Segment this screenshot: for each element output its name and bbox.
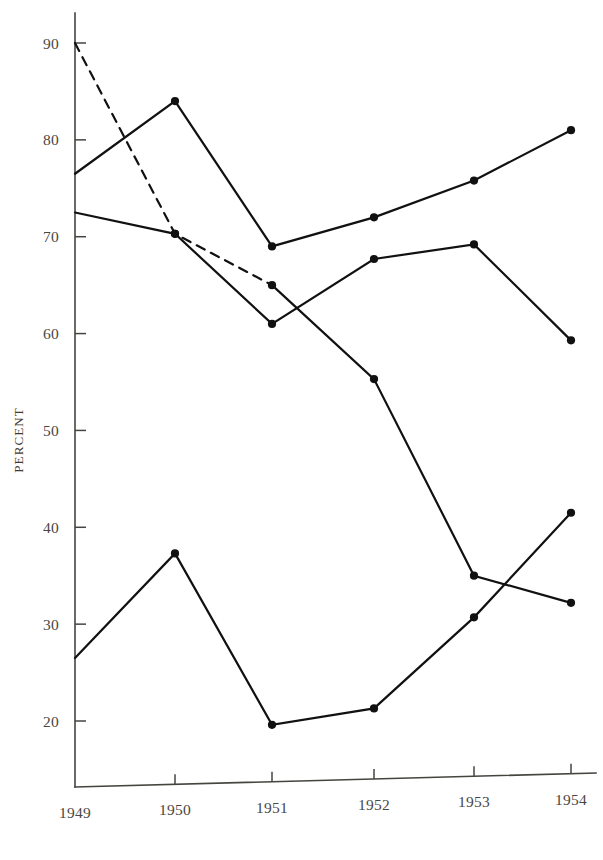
data-point-marker (470, 176, 478, 184)
data-point-marker (171, 97, 179, 105)
y-tick-label: 40 (43, 519, 59, 536)
data-point-marker (268, 721, 276, 729)
data-point-marker (567, 509, 575, 517)
y-tick-label: 50 (43, 422, 59, 439)
data-point-marker (370, 375, 378, 383)
x-tick-label: 1950 (159, 801, 191, 818)
data-point-marker (370, 704, 378, 712)
chart-figure: 9080706050403020 19491950195119521953195… (0, 0, 603, 860)
y-tick-label: 80 (43, 131, 59, 148)
x-tick-label: 1954 (555, 791, 587, 808)
data-point-marker (370, 213, 378, 221)
y-axis-title: PERCENT (11, 407, 26, 472)
data-point-marker (171, 230, 179, 238)
line-chart-canvas: 9080706050403020 19491950195119521953195… (0, 0, 603, 860)
data-point-marker (567, 126, 575, 134)
y-axis-title-group: PERCENT (11, 407, 26, 472)
data-point-marker (171, 549, 179, 557)
y-tick-label: 30 (43, 616, 59, 633)
y-tick-label: 20 (43, 713, 59, 730)
data-point-marker (268, 281, 276, 289)
y-tick-label: 60 (43, 325, 59, 342)
x-tick-label: 1949 (59, 804, 91, 821)
x-tick-label: 1953 (458, 793, 490, 810)
data-point-marker (567, 599, 575, 607)
data-point-marker (470, 572, 478, 580)
data-point-marker (370, 255, 378, 263)
data-point-marker (268, 242, 276, 250)
data-point-marker (567, 336, 575, 344)
data-point-marker (470, 613, 478, 621)
plot-background (0, 0, 603, 860)
x-tick-label: 1951 (256, 799, 288, 816)
x-tick-label: 1952 (358, 796, 390, 813)
data-point-marker (470, 240, 478, 248)
data-point-marker (268, 320, 276, 328)
y-tick-label: 70 (43, 228, 59, 245)
y-tick-label: 90 (43, 35, 59, 52)
